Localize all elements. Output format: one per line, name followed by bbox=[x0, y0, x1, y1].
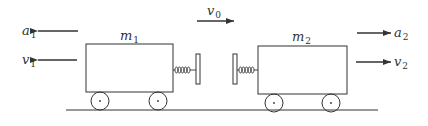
cart-body bbox=[86, 44, 173, 92]
velocity-v1: v1 bbox=[22, 52, 77, 69]
cart-m1: m1 bbox=[86, 28, 200, 110]
spring-icon bbox=[237, 67, 258, 73]
velocity-v0: v0 bbox=[197, 3, 234, 21]
collision-diagram: a1 v1 m1 v0 m2 a2 v2 bbox=[0, 0, 428, 126]
bumper-plate bbox=[196, 54, 200, 84]
svg-text:v2: v2 bbox=[394, 54, 408, 71]
velocity-v2: v2 bbox=[356, 54, 408, 71]
mass-label-m2: m2 bbox=[292, 29, 311, 46]
svg-text:v0: v0 bbox=[207, 3, 221, 20]
cart-m2: m2 bbox=[233, 29, 347, 112]
acceleration-a1: a1 bbox=[22, 23, 78, 40]
bumper-plate bbox=[233, 54, 237, 84]
svg-text:a2: a2 bbox=[394, 25, 409, 42]
spring-icon bbox=[173, 67, 196, 73]
svg-text:a1: a1 bbox=[22, 23, 37, 40]
mass-label-m1: m1 bbox=[120, 28, 139, 45]
cart-body bbox=[258, 46, 347, 94]
acceleration-a2: a2 bbox=[357, 25, 409, 42]
svg-text:v1: v1 bbox=[22, 52, 36, 69]
